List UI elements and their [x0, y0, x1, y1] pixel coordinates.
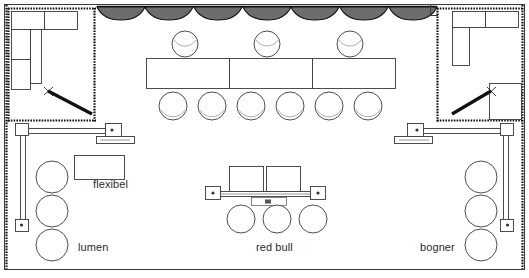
chairs-below-banquet-table	[159, 92, 382, 120]
label-bogner: bogner	[420, 241, 455, 253]
floor-plan-drawing	[0, 0, 529, 278]
room-right-counters	[453, 12, 522, 120]
lumen-chairs	[36, 161, 68, 261]
bogner-chairs	[465, 161, 497, 261]
room-right	[430, 5, 522, 122]
ceiling-drape-scallops	[97, 7, 437, 21]
label-red-bull: red bull	[256, 241, 293, 253]
chairs-above-banquet-table	[172, 31, 363, 57]
label-flexibel: flexibel	[93, 178, 128, 190]
floor-plan-canvas: flexibel lumen red bull bogner	[0, 0, 529, 278]
room-left-door-icon	[44, 87, 92, 114]
room-left	[8, 8, 96, 122]
room-left-counters	[12, 12, 78, 90]
banquet-table-row	[147, 59, 396, 89]
label-lumen: lumen	[78, 241, 108, 253]
flexibel-desk	[75, 156, 125, 180]
red-bull-chairs	[227, 205, 327, 233]
red-bull-desks	[206, 167, 326, 206]
